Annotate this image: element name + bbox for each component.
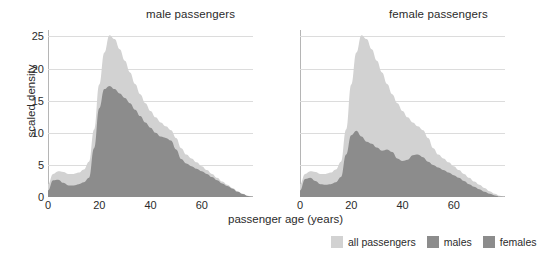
y-axis-ticks: 0510152025	[20, 0, 44, 263]
legend-label: females	[500, 236, 537, 248]
x-tick-label: 60	[448, 199, 460, 211]
legend-swatch-icon	[483, 236, 495, 248]
y-tick-label: 5	[20, 159, 44, 171]
chart-legend: all passengersmalesfemales	[331, 236, 541, 248]
y-tick-label: 20	[20, 63, 44, 75]
x-tick-label: 20	[93, 199, 105, 211]
density-areas	[48, 30, 253, 197]
density-areas	[300, 30, 505, 197]
legend-item: males	[427, 236, 472, 248]
legend-item: females	[483, 236, 537, 248]
x-tick-label: 60	[196, 199, 208, 211]
y-tick-label: 25	[20, 30, 44, 42]
legend-swatch-icon	[331, 236, 343, 248]
legend-label: all passengers	[348, 236, 416, 248]
panel-title-female: female passengers	[389, 8, 488, 20]
chart-figure: male passengers female passengers scaled…	[0, 0, 541, 263]
plot-area-male	[48, 30, 253, 197]
y-tick-label: 15	[20, 95, 44, 107]
y-tick-label: 0	[20, 191, 44, 203]
plot-area-female	[300, 30, 505, 197]
x-tick-label: 40	[144, 199, 156, 211]
x-tick-label: 0	[297, 199, 303, 211]
x-tick-label: 20	[345, 199, 357, 211]
legend-swatch-icon	[427, 236, 439, 248]
x-axis-label: passenger age (years)	[228, 213, 343, 225]
x-tick-label: 0	[45, 199, 51, 211]
legend-label: males	[444, 236, 472, 248]
legend-item: all passengers	[331, 236, 416, 248]
y-tick-label: 10	[20, 127, 44, 139]
x-tick-label: 40	[396, 199, 408, 211]
panel-title-male: male passengers	[146, 8, 235, 20]
